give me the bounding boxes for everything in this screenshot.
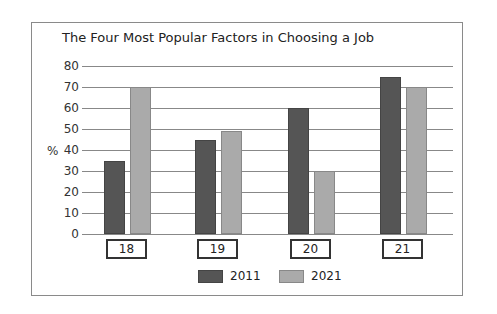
bar-18-2021 xyxy=(130,87,151,234)
bar-20-2021 xyxy=(314,171,335,234)
y-tick-label: 30 xyxy=(55,164,79,178)
legend-label-2021: 2021 xyxy=(311,269,342,283)
bar-19-2011 xyxy=(195,140,216,234)
bar-21-2011 xyxy=(380,77,401,234)
bar-21-2021 xyxy=(406,87,427,234)
y-tick-label: 50 xyxy=(55,122,79,136)
legend-swatch-2011 xyxy=(198,270,223,283)
y-tick-label: 70 xyxy=(55,80,79,94)
category-label-18: 18 xyxy=(106,239,147,259)
bar-18-2011 xyxy=(104,161,125,234)
bar-19-2021 xyxy=(221,131,242,234)
y-tick-label: 60 xyxy=(55,101,79,115)
y-tick-label: 80 xyxy=(55,59,79,73)
y-tick-label: 20 xyxy=(55,185,79,199)
y-tick-label: 40 xyxy=(55,143,79,157)
bar-20-2011 xyxy=(288,108,309,234)
legend-swatch-2021 xyxy=(279,270,304,283)
legend-label-2011: 2011 xyxy=(230,269,261,283)
gridline xyxy=(82,234,453,235)
y-tick-label: 0 xyxy=(55,227,79,241)
category-label-21: 21 xyxy=(382,239,423,259)
category-label-20: 20 xyxy=(290,239,331,259)
gridline xyxy=(82,66,453,67)
chart-title: The Four Most Popular Factors in Choosin… xyxy=(62,30,374,45)
category-label-19: 19 xyxy=(197,239,238,259)
y-tick-label: 10 xyxy=(55,206,79,220)
